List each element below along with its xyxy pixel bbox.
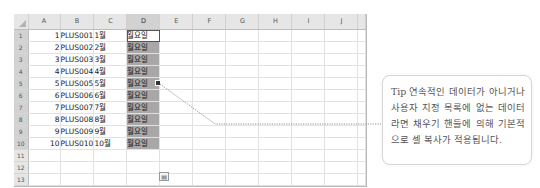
cell-a13[interactable]: [28, 174, 60, 186]
cell-c13[interactable]: [94, 174, 127, 186]
cell-h10[interactable]: [259, 138, 292, 150]
cell-i10[interactable]: [292, 138, 325, 150]
cell-h3[interactable]: [259, 54, 292, 66]
cell-d2[interactable]: 월요일: [127, 42, 160, 54]
cell-k6[interactable]: [358, 90, 366, 102]
cell-d13[interactable]: [127, 174, 160, 186]
cell-a5[interactable]: 5: [28, 78, 60, 90]
cell-f4[interactable]: [193, 66, 226, 78]
cell-b4[interactable]: PLUS004: [60, 66, 94, 78]
cell-e11[interactable]: [160, 150, 193, 162]
cell-h2[interactable]: [259, 42, 292, 54]
cell-h4[interactable]: [259, 66, 292, 78]
cell-b7[interactable]: PLUS007: [60, 102, 94, 114]
cell-i12[interactable]: [292, 162, 325, 174]
cell-a10[interactable]: 10: [28, 138, 60, 150]
row-header[interactable]: 7: [14, 102, 28, 114]
row-header[interactable]: 3: [14, 54, 28, 66]
cell-f2[interactable]: [193, 42, 226, 54]
cell-i1[interactable]: [292, 30, 325, 42]
cell-k13[interactable]: [358, 174, 366, 186]
cell-a1[interactable]: 1: [28, 30, 60, 42]
cell-d10[interactable]: 월요일: [127, 138, 160, 150]
row-header[interactable]: 12: [14, 162, 28, 174]
cell-c7[interactable]: 7월: [94, 102, 127, 114]
cell-f8[interactable]: [193, 114, 226, 126]
cell-k7[interactable]: [358, 102, 366, 114]
cell-a7[interactable]: 7: [28, 102, 60, 114]
cell-d9[interactable]: 월요일: [127, 126, 160, 138]
cell-e10[interactable]: [160, 138, 193, 150]
fill-handle-icon[interactable]: [155, 80, 161, 86]
row-header[interactable]: 5: [14, 78, 28, 90]
cell-h6[interactable]: [259, 90, 292, 102]
cell-b10[interactable]: PLUS010: [60, 138, 94, 150]
cell-j3[interactable]: [325, 54, 358, 66]
cell-j8[interactable]: [325, 114, 358, 126]
cell-f10[interactable]: [193, 138, 226, 150]
cell-g8[interactable]: [226, 114, 259, 126]
cell-j2[interactable]: [325, 42, 358, 54]
cell-c1[interactable]: 1월: [94, 30, 127, 42]
cell-d3[interactable]: 월요일: [127, 54, 160, 66]
cell-d11[interactable]: [127, 150, 160, 162]
cell-k9[interactable]: [358, 126, 366, 138]
cell-i6[interactable]: [292, 90, 325, 102]
column-header-a[interactable]: A: [28, 14, 60, 30]
cell-b13[interactable]: [60, 174, 94, 186]
cell-h13[interactable]: [259, 174, 292, 186]
cell-k11[interactable]: [358, 150, 366, 162]
cell-b1[interactable]: PLUS001: [60, 30, 94, 42]
cell-j6[interactable]: [325, 90, 358, 102]
cell-j11[interactable]: [325, 150, 358, 162]
cell-c4[interactable]: 4월: [94, 66, 127, 78]
cell-g3[interactable]: [226, 54, 259, 66]
cell-k3[interactable]: [358, 54, 366, 66]
row-header[interactable]: 1: [14, 30, 28, 42]
cell-e5[interactable]: [160, 78, 193, 90]
cell-a12[interactable]: [28, 162, 60, 174]
cell-i2[interactable]: [292, 42, 325, 54]
cell-e8[interactable]: [160, 114, 193, 126]
cell-g12[interactable]: [226, 162, 259, 174]
cell-i3[interactable]: [292, 54, 325, 66]
cell-k10[interactable]: [358, 138, 366, 150]
cell-d7[interactable]: 월요일: [127, 102, 160, 114]
row-header[interactable]: 2: [14, 42, 28, 54]
cell-b11[interactable]: [60, 150, 94, 162]
cell-a4[interactable]: 4: [28, 66, 60, 78]
row-header[interactable]: 11: [14, 150, 28, 162]
column-header-k[interactable]: [358, 14, 366, 30]
cell-c12[interactable]: [94, 162, 127, 174]
row-header[interactable]: 4: [14, 66, 28, 78]
cell-a11[interactable]: [28, 150, 60, 162]
cell-c2[interactable]: 2월: [94, 42, 127, 54]
cell-i5[interactable]: [292, 78, 325, 90]
cell-c10[interactable]: 10월: [94, 138, 127, 150]
cell-j1[interactable]: [325, 30, 358, 42]
column-header-e[interactable]: E: [160, 14, 193, 30]
select-all-button[interactable]: [14, 14, 28, 30]
cell-j13[interactable]: [325, 174, 358, 186]
cell-c8[interactable]: 8월: [94, 114, 127, 126]
cell-d12[interactable]: [127, 162, 160, 174]
cell-i11[interactable]: [292, 150, 325, 162]
cell-b5[interactable]: PLUS005: [60, 78, 94, 90]
cell-b3[interactable]: PLUS003: [60, 54, 94, 66]
cell-f11[interactable]: [193, 150, 226, 162]
cell-d1[interactable]: 월요일: [127, 30, 160, 42]
cell-f7[interactable]: [193, 102, 226, 114]
autofill-options-icon[interactable]: ▤: [159, 172, 169, 181]
cell-h8[interactable]: [259, 114, 292, 126]
cell-f1[interactable]: [193, 30, 226, 42]
row-header[interactable]: 13: [14, 174, 28, 186]
cell-k5[interactable]: [358, 78, 366, 90]
cell-e1[interactable]: [160, 30, 193, 42]
cell-i8[interactable]: [292, 114, 325, 126]
cell-c11[interactable]: [94, 150, 127, 162]
cell-f9[interactable]: [193, 126, 226, 138]
cell-h12[interactable]: [259, 162, 292, 174]
cell-a8[interactable]: 8: [28, 114, 60, 126]
cell-c6[interactable]: 6월: [94, 90, 127, 102]
cell-a3[interactable]: 3: [28, 54, 60, 66]
